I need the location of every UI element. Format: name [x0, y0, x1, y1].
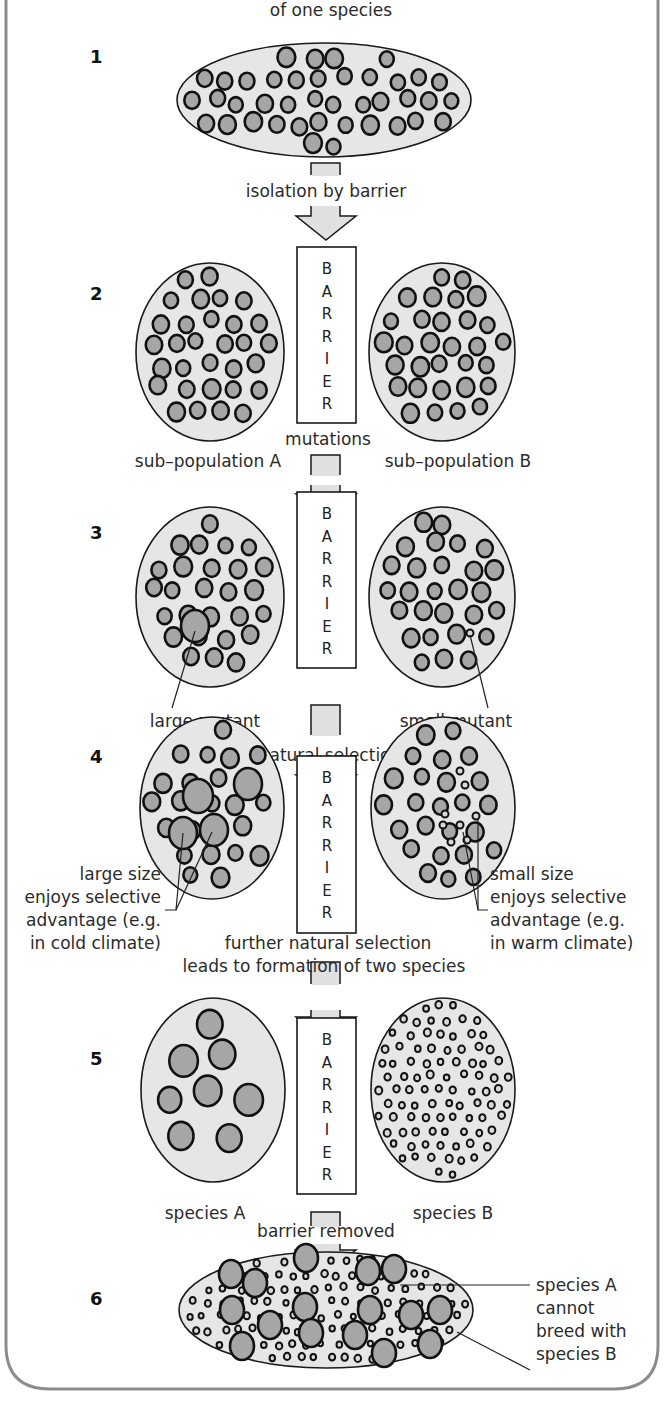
- barrier-letter: R: [322, 305, 332, 323]
- organism-icon: [226, 360, 241, 377]
- organism-icon: [218, 631, 234, 649]
- organism-icon: [179, 317, 194, 333]
- organism-icon: [311, 113, 327, 131]
- organism-icon: [428, 583, 442, 598]
- organism-icon: [472, 772, 488, 790]
- organism-icon: [278, 48, 296, 68]
- organism-icon: [401, 1073, 407, 1080]
- barrier-letter: I: [325, 859, 329, 877]
- organism-icon: [198, 115, 214, 133]
- organism-icon: [326, 1285, 331, 1291]
- organism-icon: [437, 1142, 443, 1149]
- species-a-organism-icon: [219, 1260, 243, 1288]
- organism-icon: [469, 1088, 475, 1094]
- organism-icon: [368, 1341, 373, 1347]
- organism-icon: [456, 846, 472, 864]
- organism-icon: [404, 840, 419, 857]
- step-number-1: 1: [90, 46, 103, 67]
- organism-icon: [455, 272, 470, 289]
- organism-icon: [385, 769, 403, 789]
- organism-icon: [442, 1129, 448, 1135]
- organism-icon: [423, 1141, 429, 1148]
- organism-icon: [417, 725, 434, 744]
- organism-icon: [480, 796, 496, 814]
- organism-icon: [342, 1298, 348, 1305]
- organism-icon: [179, 381, 194, 398]
- organism-icon: [390, 377, 407, 395]
- organism-icon: [473, 583, 491, 603]
- barrier-letter: R: [322, 837, 332, 855]
- organism-icon: [409, 379, 426, 397]
- large-mutant-icon: [181, 610, 209, 642]
- organism-icon: [387, 356, 404, 375]
- organism-icon: [467, 1140, 474, 1148]
- organism-icon: [189, 333, 203, 348]
- organism-icon: [372, 1287, 378, 1294]
- organism-icon: [188, 1314, 193, 1320]
- organism-icon: [202, 515, 218, 532]
- population-species-a: [141, 998, 285, 1182]
- organism-icon: [461, 652, 476, 669]
- organism-icon: [423, 1005, 429, 1011]
- organism-icon: [397, 337, 413, 354]
- organism-icon: [276, 1342, 282, 1349]
- organism-icon: [173, 746, 188, 763]
- organism-icon: [432, 356, 447, 372]
- organism-icon: [151, 562, 166, 579]
- population-sub-b: [369, 263, 515, 441]
- organism-icon: [415, 601, 432, 620]
- barrier: BARRIER: [297, 756, 356, 933]
- organism-icon: [199, 1313, 204, 1319]
- small-organism-icon: [457, 768, 464, 775]
- step-number-3: 3: [90, 522, 103, 543]
- organism-icon: [400, 90, 415, 106]
- organism-icon: [479, 357, 493, 373]
- small-organism-icon: [442, 811, 449, 818]
- organism-icon: [399, 288, 416, 306]
- organism-icon: [363, 69, 377, 85]
- organism-icon: [424, 629, 438, 645]
- organism-icon: [311, 71, 326, 87]
- organism-icon: [418, 817, 434, 835]
- organism-icon: [261, 1342, 267, 1348]
- organism-icon: [381, 582, 395, 598]
- organism-icon: [158, 608, 172, 624]
- organism-icon: [236, 292, 251, 309]
- organism-icon: [474, 1099, 480, 1106]
- organism-icon: [444, 338, 460, 356]
- organism-icon: [327, 139, 341, 155]
- svg-text:enjoys selective: enjoys selective: [25, 887, 161, 907]
- barrier-letter: R: [322, 640, 332, 658]
- organism-icon: [488, 1101, 495, 1109]
- organism-icon: [392, 602, 408, 619]
- organism-icon: [169, 335, 184, 352]
- organism-icon: [251, 315, 266, 332]
- organism-icon: [481, 378, 496, 394]
- organism-icon: [428, 1018, 434, 1024]
- species-a-organism-icon: [399, 1301, 423, 1329]
- organism-icon: [250, 746, 265, 763]
- barrier-letter: R: [322, 328, 332, 346]
- transition-label-isolation: isolation by barrier: [246, 181, 406, 201]
- species-a-organism-icon: [293, 1293, 317, 1321]
- organism-icon: [504, 1101, 510, 1108]
- organism-icon: [379, 1060, 385, 1067]
- organism-icon: [191, 536, 207, 554]
- barrier-letter: B: [322, 505, 332, 523]
- barrier-letter: I: [325, 350, 329, 368]
- organism-icon: [408, 794, 423, 811]
- species-a-organism-icon: [428, 1296, 452, 1324]
- organism-icon: [460, 311, 476, 328]
- svg-text:advantage (e.g.: advantage (e.g.: [490, 910, 625, 930]
- transition-label-further-selection: further natural selection leads to forma…: [183, 933, 466, 976]
- organism-icon: [165, 627, 182, 646]
- organism-icon: [434, 751, 450, 769]
- population-sub-b-mutated: [369, 507, 515, 687]
- organism-icon: [450, 1033, 456, 1039]
- organism-icon: [333, 1273, 339, 1280]
- organism-icon: [321, 1270, 328, 1277]
- organism-icon: [281, 97, 295, 113]
- organism-icon: [391, 821, 407, 839]
- organism-icon: [446, 1327, 452, 1334]
- organism-icon: [406, 1086, 413, 1093]
